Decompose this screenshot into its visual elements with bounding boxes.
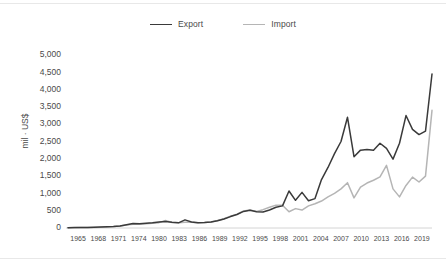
- x-tick-label: 2004: [313, 235, 329, 242]
- x-tick-label: 1989: [212, 235, 228, 242]
- y-tick-label: 5,000: [40, 49, 62, 59]
- x-tick-label: 1980: [151, 235, 167, 242]
- x-tick-label: 1995: [252, 235, 268, 242]
- y-tick-label: 0: [56, 222, 61, 232]
- series-line-export: [68, 74, 432, 228]
- plot-area: 5,0004,5004,0003,5003,0002,5002,0001,500…: [0, 0, 446, 262]
- y-tick-label: 4,500: [40, 67, 62, 77]
- x-tick-label: 2016: [394, 235, 410, 242]
- x-tick-label: 2001: [293, 235, 309, 242]
- x-tick-label: 1986: [192, 235, 208, 242]
- x-tick-label: 1998: [273, 235, 289, 242]
- x-tick-label: 2019: [414, 235, 430, 242]
- y-tick-label: 2,500: [40, 136, 62, 146]
- x-tick-label: 2013: [374, 235, 390, 242]
- y-tick-label: 3,000: [40, 118, 62, 128]
- line-chart: Export Import mil · US$ 5,0004,5004,0003…: [0, 0, 446, 262]
- y-tick-label: 3,500: [40, 101, 62, 111]
- x-tick-label: 1971: [111, 235, 127, 242]
- y-tick-label: 4,000: [40, 84, 62, 94]
- x-tick-label: 1983: [171, 235, 187, 242]
- y-tick-label: 500: [47, 205, 61, 215]
- y-axis-tick-labels: 5,0004,5004,0003,5003,0002,5002,0001,500…: [40, 49, 62, 232]
- x-tick-label: 1965: [70, 235, 86, 242]
- x-tick-label: 1968: [91, 235, 107, 242]
- x-tick-label: 2007: [333, 235, 349, 242]
- y-tick-label: 1,000: [40, 188, 62, 198]
- x-tick-label: 1992: [232, 235, 248, 242]
- plot-svg: 5,0004,5004,0003,5003,0002,5002,0001,500…: [0, 0, 446, 262]
- x-axis-tick-labels: 1965196819711974198019831986198919921995…: [70, 235, 429, 242]
- x-tick-label: 2010: [353, 235, 369, 242]
- x-tick-label: 1974: [131, 235, 147, 242]
- y-tick-label: 1,500: [40, 170, 62, 180]
- y-tick-label: 2,000: [40, 153, 62, 163]
